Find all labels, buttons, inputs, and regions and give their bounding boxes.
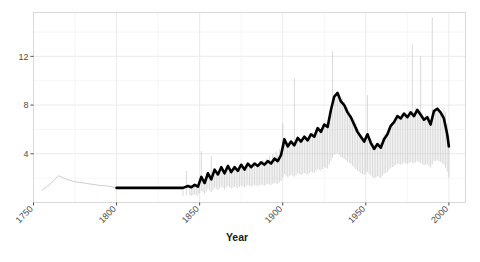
- x-axis-title: Year: [226, 231, 248, 243]
- y-tick-label: 12: [18, 52, 28, 62]
- chart-figure: 4812 175018001850190019502000 Year: [0, 0, 480, 262]
- y-tick-label: 4: [23, 149, 28, 159]
- y-tick-label: 8: [23, 100, 28, 110]
- figure-background: [0, 0, 480, 262]
- chart-svg: 4812 175018001850190019502000 Year: [0, 0, 480, 262]
